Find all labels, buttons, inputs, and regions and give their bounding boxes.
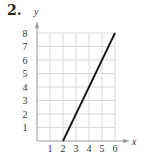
x-tick-label: 3 — [74, 143, 79, 154]
x-tick-label: 1 — [48, 143, 53, 154]
axes — [35, 21, 130, 143]
x-tick-label: 2 — [61, 143, 66, 154]
x-tick-label: 6 — [113, 143, 118, 154]
y-tick-label: 8 — [23, 28, 28, 39]
y-tick-label: 6 — [23, 55, 28, 66]
x-tick-label: 5 — [100, 143, 105, 154]
x-axis-label: x — [131, 136, 137, 147]
y-tick-label: 2 — [23, 109, 28, 120]
grid — [37, 33, 115, 141]
y-tick-label: 1 — [23, 122, 28, 133]
y-tick-label: 5 — [23, 68, 28, 79]
line-chart: 12345612345678 x y — [0, 0, 147, 158]
x-axis-arrow-icon — [123, 139, 130, 143]
y-axis-label: y — [33, 6, 39, 17]
y-tick-label: 4 — [23, 82, 28, 93]
y-tick-label: 7 — [23, 41, 28, 52]
x-tick-label: 4 — [87, 143, 92, 154]
y-tick-label: 3 — [23, 95, 28, 106]
y-axis-arrow-icon — [35, 21, 39, 28]
